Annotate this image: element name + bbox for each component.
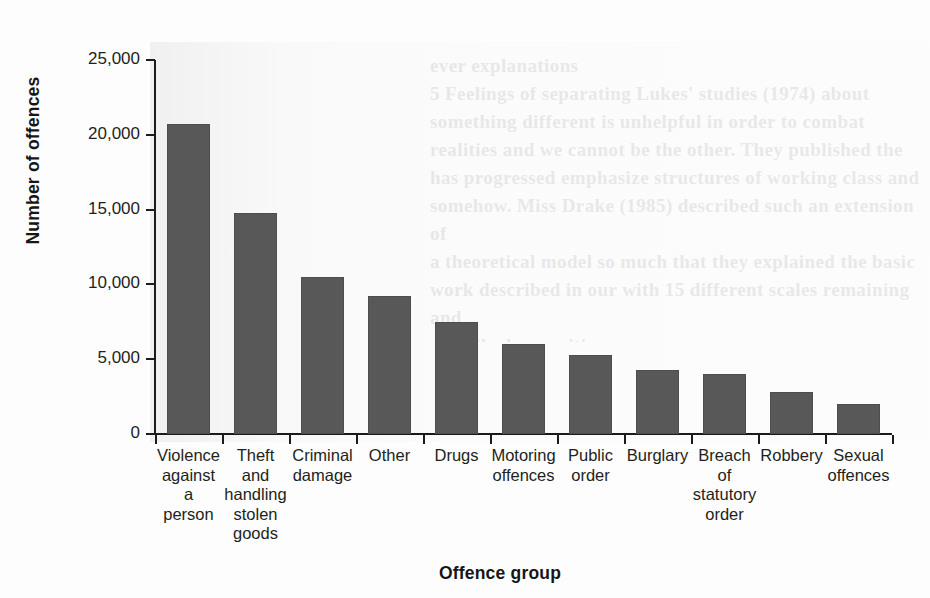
bar bbox=[234, 213, 276, 434]
x-axis-category-label: Criminal damage bbox=[285, 446, 360, 485]
y-axis-tick-label: 20,000 bbox=[54, 124, 140, 144]
x-axis-tick bbox=[691, 435, 693, 444]
y-axis-tick bbox=[146, 283, 155, 285]
y-axis-tick-label: 10,000 bbox=[54, 273, 140, 293]
bar bbox=[703, 374, 745, 434]
y-axis-tick bbox=[146, 433, 155, 435]
x-axis-tick bbox=[557, 435, 559, 444]
x-axis-category-label: Drugs bbox=[419, 446, 494, 466]
bar bbox=[636, 370, 678, 434]
y-axis-tick bbox=[146, 134, 155, 136]
y-axis-tick-labels: 05,00010,00015,00020,00025,000 bbox=[48, 0, 140, 500]
y-axis-title: Number of offences bbox=[23, 56, 44, 266]
x-axis-category-label: Burglary bbox=[620, 446, 695, 466]
bar bbox=[301, 277, 343, 434]
bar bbox=[502, 344, 544, 434]
bar bbox=[435, 322, 477, 434]
y-axis-tick-label: 15,000 bbox=[54, 199, 140, 219]
y-axis-tick bbox=[146, 209, 155, 211]
x-axis-category-label: Other bbox=[352, 446, 427, 466]
x-axis-tick bbox=[155, 435, 157, 444]
x-axis-category-label: Violence against a person bbox=[151, 446, 226, 524]
bar bbox=[368, 296, 410, 434]
x-axis-tick bbox=[758, 435, 760, 444]
bar-chart-figure: ever explanations 5 Feelings of separati… bbox=[0, 0, 930, 598]
bar bbox=[770, 392, 812, 434]
y-axis-tick-label: 0 bbox=[54, 423, 140, 443]
x-axis-category-label: Robbery bbox=[754, 446, 829, 466]
x-axis-tick bbox=[892, 435, 894, 444]
x-axis-tick bbox=[423, 435, 425, 444]
x-axis-category-label: Sexual offences bbox=[821, 446, 896, 485]
y-axis-tick-label: 25,000 bbox=[54, 49, 140, 69]
x-axis-tick bbox=[490, 435, 492, 444]
bar bbox=[837, 404, 879, 434]
x-axis-tick bbox=[825, 435, 827, 444]
y-axis-tick-label: 5,000 bbox=[54, 348, 140, 368]
bar bbox=[167, 124, 209, 434]
x-axis-tick bbox=[289, 435, 291, 444]
x-axis-title: Offence group bbox=[380, 563, 620, 584]
x-axis-category-label: Motoring offences bbox=[486, 446, 561, 485]
x-axis-category-label: Breach of statutory order bbox=[687, 446, 762, 524]
y-axis-tick bbox=[146, 59, 155, 61]
x-axis-tick bbox=[356, 435, 358, 444]
x-axis-category-label: Public order bbox=[553, 446, 628, 485]
x-axis-category-label: Theft and handling stolen goods bbox=[218, 446, 293, 544]
y-axis-line bbox=[154, 60, 156, 435]
y-axis-tick bbox=[146, 358, 155, 360]
x-axis-tick bbox=[624, 435, 626, 444]
plot-area: 05,00010,00015,00020,00025,000 Violence … bbox=[0, 0, 930, 598]
bar bbox=[569, 355, 611, 434]
x-axis-tick bbox=[222, 435, 224, 444]
